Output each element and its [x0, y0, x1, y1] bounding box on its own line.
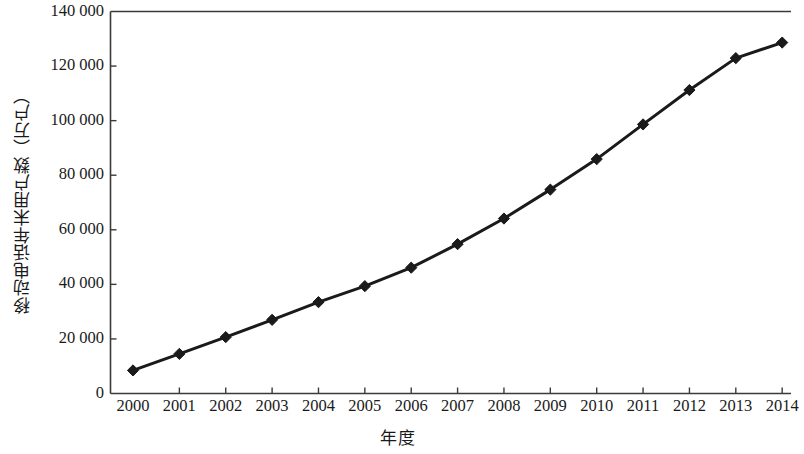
y-tick-label: 40 000 [22, 275, 104, 292]
x-axis-title: 年度 [0, 424, 796, 449]
y-tick-label: 20 000 [22, 330, 104, 347]
data-point-marker [174, 348, 185, 359]
y-tick-label: 120 000 [22, 57, 104, 74]
data-point-marker [359, 281, 370, 292]
data-point-marker [267, 314, 278, 325]
y-tick-label: 60 000 [22, 221, 104, 238]
y-tick-label: 0 [22, 385, 104, 402]
data-point-marker [777, 37, 788, 48]
data-point-marker [127, 365, 138, 376]
x-axis-title-text: 年度 [380, 429, 416, 448]
data-point-marker [452, 239, 463, 250]
y-tick-label: 140 000 [22, 3, 104, 20]
y-tick-label: 100 000 [22, 112, 104, 129]
y-tick-label: 80 000 [22, 166, 104, 183]
data-point-marker [406, 262, 417, 273]
series-line [133, 43, 782, 371]
data-point-marker [220, 332, 231, 343]
data-point-marker [313, 297, 324, 308]
x-tick-label: 2014 [754, 398, 804, 415]
